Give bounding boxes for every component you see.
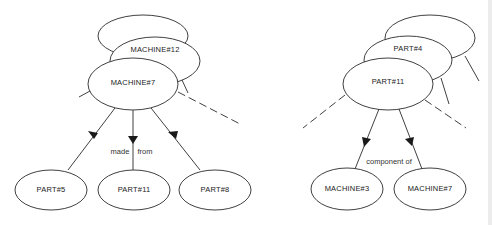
arrowhead-part-8 (168, 131, 178, 139)
right-dashed-link-left (303, 95, 345, 128)
right-cluster: PART#4 PART#11 component of MACHINE#3 MA… (303, 15, 479, 210)
semantic-network-diagram: MACHINE#12 MACHINE#7 made from PART#5 PA… (0, 0, 492, 225)
edge-to-part-5 (68, 108, 115, 170)
right-middle-tail (441, 78, 449, 104)
left-stub (79, 91, 90, 97)
node-machine-7-child-label: MACHINE#7 (408, 184, 453, 193)
arrowhead-part-11 (128, 136, 138, 144)
node-part-5-label: PART#5 (37, 185, 66, 194)
relation-label-made: made (111, 147, 130, 156)
node-machine-12-label: MACHINE#12 (130, 45, 179, 54)
edge-to-part-8 (151, 108, 200, 170)
node-machine-7-label: MACHINE#7 (111, 78, 156, 87)
left-cluster: MACHINE#12 MACHINE#7 made from PART#5 PA… (15, 15, 251, 210)
node-part-11-label: PART#11 (118, 185, 151, 194)
relation-label-component-of: component of (366, 157, 412, 166)
relation-label-from: from (138, 147, 153, 156)
node-part-4-label: PART#4 (394, 44, 423, 53)
node-part-11-front-label: PART#11 (372, 77, 405, 86)
node-machine-3-label: MACHINE#3 (325, 184, 370, 193)
right-back-tail (465, 56, 479, 81)
node-part-8-label: PART#8 (201, 185, 230, 194)
left-dashed-link (178, 92, 242, 125)
arrowhead-machine-3 (362, 137, 371, 147)
right-dashed-link-right (425, 100, 466, 128)
left-middle-tail (182, 80, 188, 93)
